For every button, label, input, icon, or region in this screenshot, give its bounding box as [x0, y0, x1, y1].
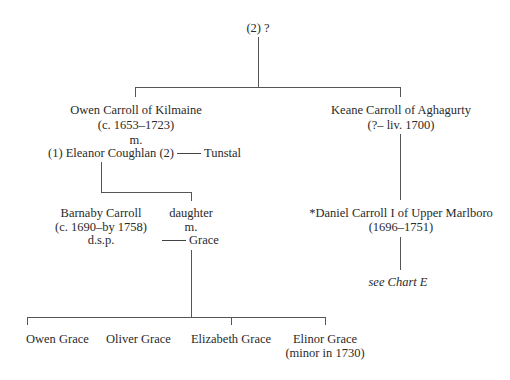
owen-drop-line [135, 87, 136, 97]
family-tree-chart: (2) ? Owen Carroll of Kilmaine (c. 1653–… [0, 0, 510, 380]
daughter-name: daughter [169, 206, 213, 220]
elinor-grace-drop-line [325, 317, 326, 325]
child-elizabeth-grace: Elizabeth Grace [191, 332, 271, 346]
marriage-dash [162, 240, 186, 241]
owen-name: Owen Carroll of Kilmaine [70, 103, 202, 117]
owen-grace-drop-line [27, 317, 28, 325]
gen2-sibling-line [101, 192, 192, 193]
keane-drop-line [400, 87, 401, 97]
root-descent-line [258, 37, 259, 88]
keane-dates: (?– liv. 1700) [368, 118, 435, 132]
root-node: (2) ? [246, 21, 269, 35]
barnaby-name: Barnaby Carroll [61, 206, 142, 220]
daniel-dates: (1696–1751) [369, 220, 434, 234]
gen3-sibling-line [27, 317, 326, 318]
daniel-name: *Daniel Carroll I of Upper Marlboro [309, 206, 493, 220]
child-elinor-grace-note: (minor in 1730) [285, 346, 364, 360]
chart-e-reference: see Chart E [368, 275, 427, 289]
spouse-tunstal: Tunstal [204, 146, 241, 160]
daughter-married-label: m. [185, 220, 198, 234]
owen-spouses: (1) Eleanor Coughlan (2)Tunstal [48, 146, 241, 160]
keane-descent-line [400, 134, 401, 200]
elizabeth-grace-drop-line [231, 317, 232, 325]
spouse-eleanor: (1) Eleanor Coughlan (2) [48, 146, 174, 160]
spouse-grace: Grace [189, 233, 219, 247]
grace-descent-line [191, 250, 192, 317]
child-oliver-grace: Oliver Grace [106, 332, 171, 346]
marriage-dash [177, 153, 201, 154]
eleanor-descent-line [101, 162, 102, 193]
daughter-drop-line [191, 192, 192, 201]
daniel-descent-line [400, 237, 401, 270]
owen-married-label: m. [130, 133, 143, 147]
child-elinor-grace: Elinor Grace [293, 332, 357, 346]
gen1-sibling-line [135, 87, 401, 88]
daughter-spouse: Grace [162, 233, 219, 247]
barnaby-dates: (c. 1690–by 1758) [55, 220, 147, 234]
owen-dates: (c. 1653–1723) [98, 118, 174, 132]
keane-name: Keane Carroll of Aghagurty [331, 103, 471, 117]
barnaby-note: d.s.p. [88, 233, 115, 247]
child-owen-grace: Owen Grace [26, 332, 89, 346]
